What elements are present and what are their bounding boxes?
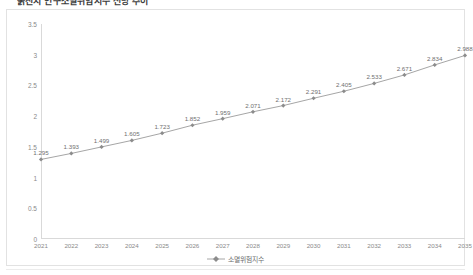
data-point-label: 1.723 [154,123,169,130]
data-point-label: 2.405 [336,81,351,88]
x-axis-tick: 2031 [337,242,351,249]
chart-container: 00.511.522.533.5 1.2951.3931.4991.6051.7… [6,9,465,266]
data-point-marker [342,89,346,93]
data-point-label: 1.959 [215,109,230,116]
data-point-label: 2.533 [366,73,381,80]
data-point-marker [281,103,285,107]
x-axis-tick: 2023 [95,242,109,249]
data-point-label: 1.295 [33,149,48,156]
x-axis-tick: 2021 [34,242,48,249]
x-axis-tick: 2030 [307,242,321,249]
data-point-label: 1.393 [64,143,79,150]
line-marker-icon [207,255,225,263]
data-point-marker [99,145,103,149]
data-point-marker [463,53,467,57]
data-point-marker [402,73,406,77]
x-axis-tick: 2034 [428,242,442,249]
y-axis-tick: 2.5 [28,82,37,89]
data-point-label: 1.499 [94,137,109,144]
x-axis-tick: 2035 [458,242,472,249]
data-point-marker [190,123,194,127]
data-point-marker [221,117,225,121]
data-point-label: 1.605 [124,130,139,137]
data-point-marker [39,157,43,161]
x-axis-tick: 2024 [125,242,139,249]
y-axis-tick: 2 [33,113,37,120]
chart-screenshot: 욹진시 인구소멸위험지수 전망 추이 00.511.522.533.5 1.29… [0,0,473,275]
y-axis-tick: 0.5 [28,205,37,212]
page-title: 욹진시 인구소멸위험지수 전망 추이 [17,0,237,7]
legend-item-label: 소멸위험지수 [228,254,264,264]
divider [6,269,465,270]
x-axis-tick: 2025 [155,242,169,249]
x-axis-tick: 2022 [64,242,78,249]
data-point-label: 1.852 [185,115,200,122]
data-point-label: 2.071 [245,102,260,109]
series-line-extinction-risk-index [41,24,465,239]
data-point-marker [311,96,315,100]
x-axis-tick: 2028 [246,242,260,249]
data-point-marker [130,138,134,142]
y-axis-tick: 3 [33,51,37,58]
y-axis-tick: 3.5 [28,21,37,28]
x-axis-tick: 2027 [216,242,230,249]
y-axis-tick: 1 [33,174,37,181]
x-axis-tick: 2026 [186,242,200,249]
data-point-label: 2.834 [427,55,442,62]
data-point-label: 2.671 [397,65,412,72]
data-point-marker [69,151,73,155]
x-axis-tick: 2029 [276,242,290,249]
x-axis-tick: 2032 [367,242,381,249]
data-point-label: 2.172 [276,96,291,103]
chart-legend: 소멸위험지수 [7,254,464,264]
data-point-label: 2.291 [306,88,321,95]
data-point-marker [372,81,376,85]
plot-area: 00.511.522.533.5 1.2951.3931.4991.6051.7… [41,24,465,239]
data-point-marker [433,63,437,67]
data-point-marker [251,110,255,114]
data-point-marker [160,131,164,135]
x-axis-tick: 2033 [398,242,412,249]
data-point-label: 2.988 [457,45,472,52]
